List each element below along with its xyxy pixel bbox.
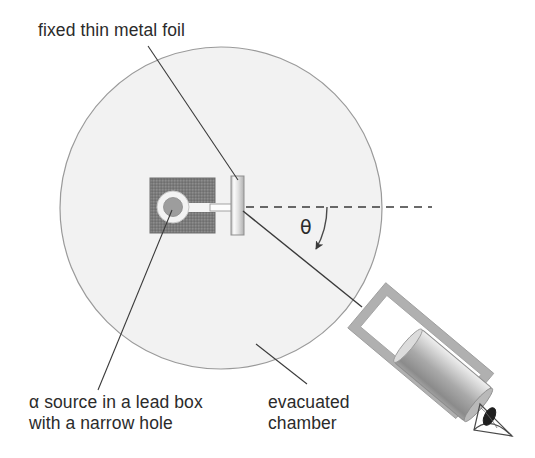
label-fixed-thin-metal-foil: fixed thin metal foil — [38, 20, 185, 41]
scattering-diagram-figure: fixed thin metal foil α source in a lead… — [0, 0, 535, 458]
diagram-canvas — [0, 0, 535, 458]
label-scattering-angle-theta: θ — [300, 216, 312, 238]
label-chamber-line1: evacuated — [268, 392, 350, 412]
label-source-line1: α source in a lead box — [29, 392, 203, 412]
metal-foil — [231, 176, 244, 235]
label-alpha-source-lead-box: α source in a lead box with a narrow hol… — [29, 392, 203, 434]
label-source-line2: with a narrow hole — [29, 413, 173, 433]
source-core — [164, 198, 183, 217]
label-chamber-line2: chamber — [268, 413, 337, 433]
label-evacuated-chamber: evacuated chamber — [268, 392, 350, 434]
